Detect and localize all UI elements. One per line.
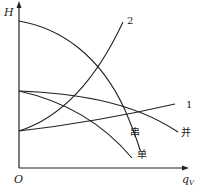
- parallel-label: 并: [181, 126, 191, 138]
- pipeline-2-label: 2: [127, 15, 133, 26]
- curve-series: [19, 21, 140, 150]
- y-axis-label: H: [3, 6, 14, 19]
- x-axis-label: qV: [182, 173, 195, 187]
- single-label: 单: [137, 149, 147, 160]
- curve-pipeline-2: [19, 22, 123, 131]
- axes: [17, 1, 190, 171]
- pipeline-1-label: 1: [186, 99, 192, 110]
- y-axis-arrow-icon: [17, 1, 22, 8]
- x-axis-arrow-icon: [182, 166, 189, 171]
- pump-curve-diagram: H O qV 2 1 并 串 单: [0, 0, 199, 187]
- origin-label: O: [14, 173, 23, 186]
- series-label: 串: [130, 127, 140, 138]
